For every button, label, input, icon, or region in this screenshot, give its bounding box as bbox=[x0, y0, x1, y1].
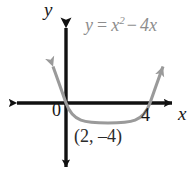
equation-lhs: y bbox=[85, 15, 93, 35]
equation-annotation: y=x2−4x bbox=[85, 16, 157, 34]
y-axis-label: y bbox=[44, 0, 52, 19]
x-axis-label: x bbox=[178, 104, 186, 123]
x-intercept-tick-label: 4 bbox=[141, 106, 150, 124]
equation-exponent: 2 bbox=[119, 14, 125, 26]
vertex-coordinate-label: (2, –4) bbox=[74, 127, 122, 145]
equation-minus: − bbox=[127, 15, 137, 35]
equation-base: x bbox=[111, 15, 119, 35]
equation-equals: = bbox=[97, 15, 107, 35]
parabola-graph-figure: y x 0 4 (2, –4) y=x2−4x bbox=[0, 0, 194, 175]
equation-term: 4x bbox=[140, 15, 157, 35]
origin-tick-label: 0 bbox=[52, 101, 61, 119]
